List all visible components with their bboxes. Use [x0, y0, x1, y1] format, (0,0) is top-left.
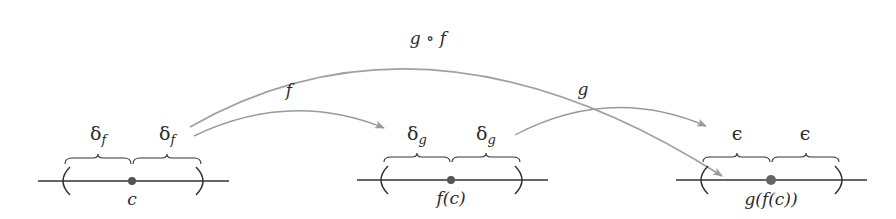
point-dot — [128, 177, 136, 185]
arrow-g — [515, 108, 706, 135]
number-line-fc: δg δg f(c) — [357, 122, 548, 208]
point-label-fc: f(c) — [434, 188, 465, 208]
epsilon-left: ϵ — [732, 122, 743, 144]
label-g-compose-f: g ∘ f — [410, 28, 449, 48]
point-label-gfc: g(f(c)) — [744, 189, 797, 209]
number-line-c: δf δf c — [38, 122, 229, 209]
brace-right — [133, 154, 201, 164]
brace-left — [65, 154, 131, 164]
brace-left — [703, 153, 770, 162]
point-dot — [766, 175, 776, 185]
delta-f-right: δf — [159, 122, 177, 147]
delta-f-left: δf — [90, 122, 108, 147]
point-dot — [447, 176, 455, 184]
epsilon-right: ϵ — [800, 122, 811, 144]
brace-right — [772, 153, 839, 162]
composition-diagram: g ∘ f f g δf δf c δg δg f(c) ϵ ϵ g(f(c — [0, 0, 896, 219]
delta-g-left: δg — [407, 122, 427, 147]
brace-right — [452, 153, 520, 162]
arrow-f — [194, 111, 384, 136]
brace-left — [384, 153, 450, 162]
arrow-g-compose-f — [190, 69, 722, 176]
point-label-c: c — [127, 189, 137, 209]
delta-g-right: δg — [476, 122, 496, 147]
label-g: g — [578, 79, 589, 99]
